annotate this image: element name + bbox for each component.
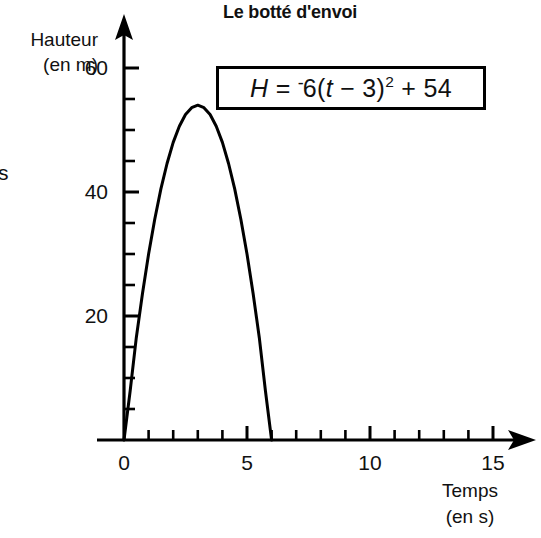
y-tick-label: 60 <box>48 57 108 78</box>
x-tick-label: 15 <box>463 452 523 473</box>
y-tick-label: 40 <box>48 181 108 202</box>
axes-group <box>97 14 536 450</box>
parabola-curve <box>124 105 272 440</box>
x-axis-label-line1: Temps <box>442 480 498 501</box>
kickoff-parabola-figure: Le botté d'envoi Hauteur (en m) s H = -6… <box>0 0 541 538</box>
curve-group <box>124 105 272 440</box>
x-tick-label: 10 <box>340 452 400 473</box>
x-axis-label: Temps (en s) <box>415 478 525 530</box>
x-tick-label: 0 <box>94 452 154 473</box>
x-axis-label-line2: (en s) <box>415 504 525 530</box>
x-tick-label: 5 <box>217 452 277 473</box>
y-tick-label: 20 <box>48 305 108 326</box>
